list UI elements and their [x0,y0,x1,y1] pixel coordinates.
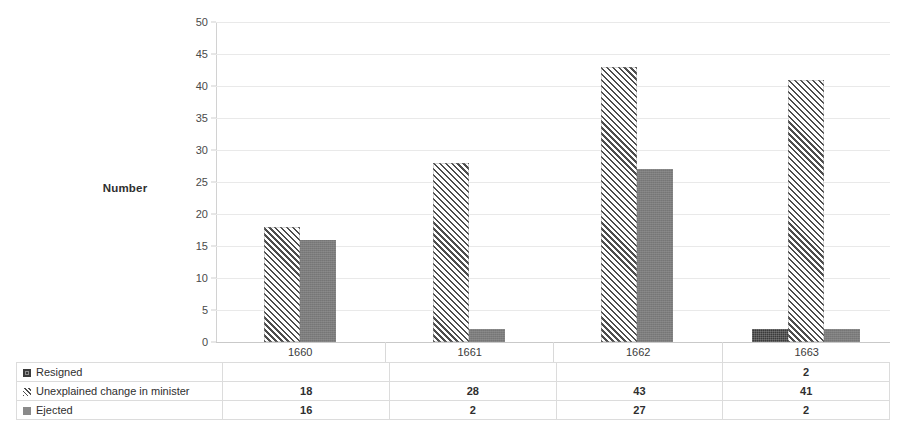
y-axis-tick-label: 50 [168,16,208,28]
legend-item-resigned: Resigned [17,363,223,382]
legend-item-ejected: Ejected [17,401,223,420]
bar-unexplained-1662[interactable] [601,67,637,342]
y-axis-tick-label: 25 [168,176,208,188]
bar-group [385,22,554,342]
table-cell-ejected-1662: 27 [556,401,723,420]
y-axis-tick-label: 35 [168,112,208,124]
data-table: Resigned2Unexplained change in minister1… [16,362,890,420]
legend-swatch-unexplained-icon [23,388,31,396]
y-axis-tick-label: 0 [168,336,208,348]
bar-ejected-1662[interactable] [637,169,673,342]
table-row: Resigned2 [17,363,890,382]
table-cell-ejected-1660: 16 [223,401,390,420]
legend-item-unexplained: Unexplained change in minister [17,382,223,401]
bar-group [722,22,891,342]
category-label-1661: 1661 [385,342,555,362]
table-row: Ejected162272 [17,401,890,420]
table-cell-ejected-1661: 2 [390,401,557,420]
bar-group [553,22,722,342]
legend-swatch-resigned-icon [23,369,31,377]
bar-ejected-1661[interactable] [469,329,505,342]
chart-root: Number 05101520253035404550 166016611662… [0,0,907,435]
y-axis-tick-label: 30 [168,144,208,156]
plot-area: 05101520253035404550 [216,22,890,342]
category-label-1660: 1660 [216,342,385,362]
bar-unexplained-1660[interactable] [264,227,300,342]
y-axis-tick-label: 20 [168,208,208,220]
y-axis-tick-label: 45 [168,48,208,60]
bar-ejected-1660[interactable] [300,240,336,342]
table-row: Unexplained change in minister18284341 [17,382,890,401]
legend-label: Unexplained change in minister [36,385,189,397]
table-cell-unexplained-1662: 43 [556,382,723,401]
table-cell-resigned-1661 [390,363,557,382]
table-cell-ejected-1663: 2 [723,401,890,420]
table-cell-unexplained-1661: 28 [390,382,557,401]
legend-label: Resigned [36,366,82,378]
bar-unexplained-1663[interactable] [788,80,824,342]
table-cell-unexplained-1660: 18 [223,382,390,401]
category-label-1663: 1663 [722,342,892,362]
bar-resigned-1663[interactable] [752,329,788,342]
category-label-1662: 1662 [553,342,723,362]
bar-unexplained-1661[interactable] [433,163,469,342]
bar-groups [216,22,890,342]
y-axis-tick-label: 10 [168,272,208,284]
table-cell-resigned-1663: 2 [723,363,890,382]
legend-label: Ejected [36,404,73,416]
y-axis-tick-label: 40 [168,80,208,92]
table-cell-unexplained-1663: 41 [723,382,890,401]
y-axis-tick-label: 15 [168,240,208,252]
bar-ejected-1663[interactable] [824,329,860,342]
bar-group [216,22,385,342]
legend-swatch-ejected-icon [23,407,31,415]
category-axis-row: 1660166116621663 [216,342,890,363]
table-cell-resigned-1662 [556,363,723,382]
y-axis-tick-label: 5 [168,304,208,316]
table-cell-resigned-1660 [223,363,390,382]
